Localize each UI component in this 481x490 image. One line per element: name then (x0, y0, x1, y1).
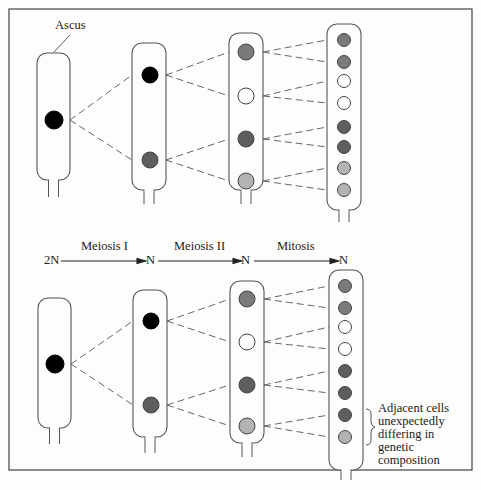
lineage-dashed-line (70, 120, 132, 160)
nucleus-mid_gray (338, 34, 351, 47)
meiosis-1-result: N (146, 253, 155, 268)
nucleus-dark_gray (143, 397, 159, 413)
lineage-dashed-line (264, 426, 329, 437)
ascus (230, 281, 264, 457)
nucleus-white (338, 97, 351, 110)
stalk-junction (50, 427, 59, 430)
lineage-dashed-line (71, 364, 133, 405)
ascus-body (133, 290, 167, 437)
nucleus-light_gray (338, 184, 351, 197)
nucleus-black (45, 111, 63, 129)
mitosis-label: Mitosis (277, 239, 315, 254)
nucleus-white (339, 343, 352, 356)
nucleus-mid_gray (339, 280, 352, 293)
meiosis-2-result: N (241, 253, 250, 268)
brace-icon (366, 409, 375, 445)
ascus (327, 24, 361, 222)
lineage-dashed-line (264, 371, 329, 385)
annotation-text: Adjacent cells unexpectedly differing in… (378, 402, 449, 467)
nucleus-dark_gray (339, 387, 352, 400)
ascus (132, 43, 166, 204)
lineage-dashed-line (166, 75, 229, 96)
nucleus-light_gray (239, 418, 255, 434)
lineage-dashed-line (167, 385, 230, 405)
ascus (37, 53, 70, 197)
lineage-dashed-line (71, 321, 133, 364)
lineage-dashed-line (263, 127, 327, 139)
lineage-dashed-line (166, 52, 229, 75)
lineage-dashed-line (166, 160, 229, 181)
mitosis-result: N (339, 253, 348, 268)
lineage-dashed-line (263, 40, 327, 52)
lineage-dashed-line (70, 75, 132, 120)
lineage-dashed-line (263, 139, 327, 147)
nucleus-mid_gray (338, 56, 351, 69)
nucleus-light_gray (339, 431, 352, 444)
lineage-dashed-line (167, 299, 230, 321)
lineage-dashed-line (263, 52, 327, 62)
lineage-dashed-line (264, 327, 329, 342)
nucleus-dark_gray (339, 409, 352, 422)
row-unexpected (38, 270, 363, 480)
lineage-dashed-line (264, 286, 329, 299)
annotation-line: composition (378, 454, 449, 467)
stalk-junction (145, 189, 154, 192)
stalk-junction (243, 442, 252, 445)
lineage-dashed-line (167, 321, 230, 342)
stalk-junction (342, 469, 351, 472)
ascus (38, 298, 71, 444)
lineage-dashed-line (167, 405, 230, 426)
nucleus-light_gray (338, 162, 351, 175)
ascus (229, 33, 263, 204)
lineage-dashed-line (264, 415, 329, 426)
lineage-dashed-line (263, 168, 327, 181)
nucleus-black (143, 313, 159, 329)
lineage-dashed-line (263, 96, 327, 103)
stalk-junction (49, 179, 58, 182)
stage-start-label: 2N (44, 253, 59, 268)
nucleus-white (239, 334, 255, 350)
ascus (329, 270, 363, 480)
nucleus-dark_gray (339, 365, 352, 378)
row-expected (37, 24, 361, 222)
nucleus-white (238, 88, 254, 104)
ascus (133, 290, 167, 453)
lineage-dashed-line (166, 139, 229, 160)
nucleus-mid_gray (238, 44, 254, 60)
nucleus-dark_gray (238, 131, 254, 147)
stage-arrows (61, 259, 339, 264)
nucleus-dark_gray (239, 377, 255, 393)
nucleus-black (142, 67, 158, 83)
nucleus-black (46, 355, 64, 373)
stalk-junction (146, 436, 155, 439)
nucleus-mid_gray (339, 302, 352, 315)
nucleus-white (338, 75, 351, 88)
lineage-dashed-line (264, 342, 329, 349)
nucleus-white (339, 321, 352, 334)
lineage-dashed-line (264, 299, 329, 308)
lineage-dashed-line (263, 181, 327, 190)
lineage-dashed-line (264, 385, 329, 393)
nucleus-dark_gray (338, 141, 351, 154)
stalk-junction (340, 209, 349, 212)
nucleus-dark_gray (338, 121, 351, 134)
nucleus-mid_gray (239, 291, 255, 307)
meiosis-2-label: Meiosis II (174, 239, 225, 254)
nucleus-light_gray (238, 173, 254, 189)
ascus-body (327, 24, 361, 210)
ascus-label-leader (54, 35, 70, 52)
nucleus-dark_gray (142, 152, 158, 168)
ascus-label: Ascus (55, 18, 86, 33)
meiosis-1-label: Meiosis I (81, 239, 128, 254)
lineage-dashed-line (263, 81, 327, 96)
